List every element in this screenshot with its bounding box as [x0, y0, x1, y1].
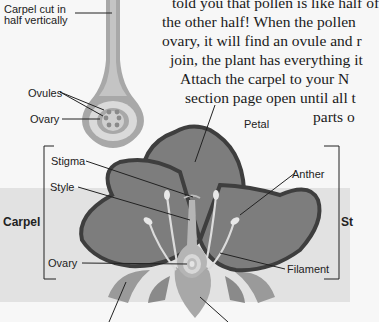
stigma-label: Stigma — [51, 155, 85, 167]
petal-label: Petal — [244, 118, 269, 130]
cross-section-ovary-label: Ovary — [30, 113, 59, 125]
stamen-group-label: St — [341, 216, 353, 228]
carpel-cut-caption-line2: half vertically — [4, 14, 68, 26]
ovary-label: Ovary — [48, 257, 77, 269]
anther-label: Anther — [292, 168, 324, 180]
filament-label: Filament — [287, 263, 329, 275]
carpel-group-label: Carpel — [3, 216, 40, 228]
carpel-cross-section-drawing — [60, 0, 144, 148]
style-label: Style — [50, 181, 74, 193]
ovules-label: Ovules — [28, 87, 62, 99]
